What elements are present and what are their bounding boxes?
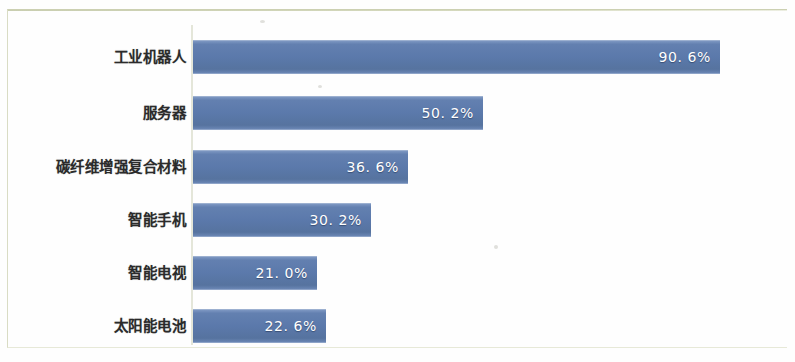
bar-category-label: 工业机器人 bbox=[114, 40, 187, 74]
bar-chart-plot-area: 工业机器人 90. 6% 服务器 50. 2% 碳纤维增强复合材料 36. 6% bbox=[0, 0, 795, 362]
bar-category-label: 碳纤维增强复合材料 bbox=[56, 150, 187, 184]
bar-category-label: 太阳能电池 bbox=[114, 309, 187, 343]
bar-row: 智能手机 30. 2% bbox=[0, 203, 795, 237]
bar-track: 90. 6% bbox=[193, 40, 720, 74]
bar-category-label: 智能手机 bbox=[128, 203, 186, 237]
scan-speck bbox=[260, 20, 265, 23]
bar-value-label: 36. 6% bbox=[346, 151, 399, 185]
chart-screenshot: 工业机器人 90. 6% 服务器 50. 2% 碳纤维增强复合材料 36. 6% bbox=[0, 0, 795, 362]
bar-fill[interactable]: 36. 6% bbox=[193, 150, 408, 184]
scan-speck bbox=[318, 85, 322, 88]
scan-speck bbox=[494, 245, 498, 249]
bar-value-label: 30. 2% bbox=[309, 204, 362, 238]
bar-fill[interactable]: 21. 0% bbox=[193, 256, 317, 290]
bar-track: 21. 0% bbox=[193, 256, 317, 290]
bar-value-label: 21. 0% bbox=[255, 257, 308, 291]
bar-track: 22. 6% bbox=[193, 309, 326, 343]
bar-track: 30. 2% bbox=[193, 203, 371, 237]
bar-value-label: 90. 6% bbox=[658, 41, 711, 75]
bar-track: 36. 6% bbox=[193, 150, 408, 184]
bar-fill[interactable]: 50. 2% bbox=[193, 96, 483, 130]
bar-fill[interactable]: 30. 2% bbox=[193, 203, 371, 237]
bar-category-label: 服务器 bbox=[143, 96, 187, 130]
bar-row: 太阳能电池 22. 6% bbox=[0, 309, 795, 343]
bar-fill[interactable]: 90. 6% bbox=[193, 40, 720, 74]
bar-value-label: 22. 6% bbox=[264, 310, 317, 344]
bar-track: 50. 2% bbox=[193, 96, 483, 130]
bar-row: 工业机器人 90. 6% bbox=[0, 40, 795, 74]
bar-value-label: 50. 2% bbox=[421, 97, 474, 131]
bar-fill[interactable]: 22. 6% bbox=[193, 309, 326, 343]
bar-row: 碳纤维增强复合材料 36. 6% bbox=[0, 150, 795, 184]
bar-category-label: 智能电视 bbox=[128, 256, 186, 290]
bar-row: 智能电视 21. 0% bbox=[0, 256, 795, 290]
bar-row: 服务器 50. 2% bbox=[0, 96, 795, 130]
